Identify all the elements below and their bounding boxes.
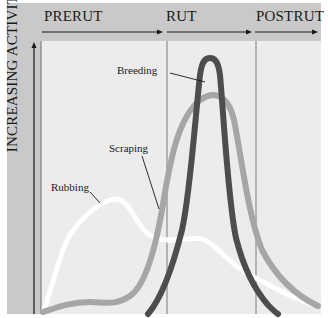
curve-rubbing bbox=[43, 199, 318, 312]
curve-scraping bbox=[43, 95, 318, 312]
phase-arrow-postrut bbox=[255, 30, 318, 35]
phase-label-postrut: POSTRUT bbox=[256, 8, 324, 25]
leader-line-rubbing bbox=[90, 192, 100, 203]
phase-arrow-rut bbox=[167, 30, 252, 35]
leader-line-scraping bbox=[142, 156, 159, 209]
phase-label-prerut: PRERUT bbox=[44, 8, 103, 25]
y-axis-arrow bbox=[32, 42, 37, 314]
diagram-graphics bbox=[0, 0, 328, 318]
phase-arrow-prerut bbox=[42, 30, 163, 35]
curve-label-scraping: Scraping bbox=[109, 142, 148, 154]
phase-label-rut: RUT bbox=[166, 8, 197, 25]
y-axis-label: INCREASING ACTIVITY bbox=[4, 0, 21, 178]
curve-label-rubbing: Rubbing bbox=[51, 181, 89, 193]
curve-label-breeding: Breeding bbox=[117, 64, 157, 76]
